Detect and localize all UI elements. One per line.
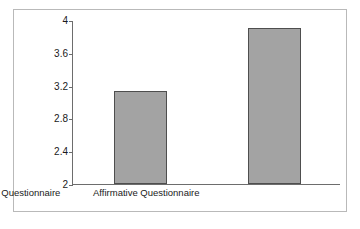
bar [114,91,167,184]
y-axis-tick-mark [69,185,73,186]
y-axis-tick-mark [69,54,73,55]
chart-figure: Mean Scores 22.42.83.23.64 Balanced Ques… [0,0,360,229]
y-axis-tick-label: 2.8 [54,114,68,124]
x-axis-tick-label: Balanced Questionnaire [0,188,60,198]
x-axis-tick-label: Affirmative Questionnaire [93,188,200,198]
y-axis-title-container: Mean Scores [20,55,36,155]
y-axis-tick-mark [69,87,73,88]
y-axis-tick-mark [69,152,73,153]
y-axis-tick-mark [69,119,73,120]
y-axis-tick-label: 4 [62,16,68,26]
y-axis-tick-label: 3.2 [54,82,68,92]
y-axis-tick-label: 2 [62,180,68,190]
plot-area: 22.42.83.23.64 [72,21,340,185]
y-axis-tick-label: 2.4 [54,147,68,157]
y-axis-tick-mark [69,21,73,22]
y-axis-tick-label: 3.6 [54,49,68,59]
bar [248,28,301,184]
